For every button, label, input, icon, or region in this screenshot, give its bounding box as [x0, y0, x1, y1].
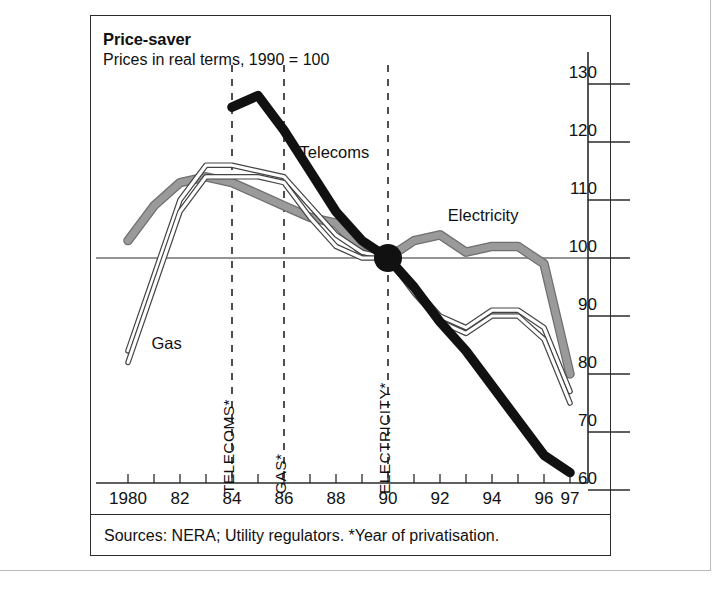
- series-label-gas: Gas: [151, 334, 181, 353]
- x-tick-label-92: 92: [431, 489, 450, 509]
- y-tick-label-130: 130: [569, 63, 597, 83]
- series-label-electricity: Electricity: [448, 206, 519, 225]
- x-tick-label-82: 82: [171, 489, 190, 509]
- source-note: Sources: NERA; Utility regulators. *Year…: [104, 527, 499, 545]
- event-label-gas-privatisation: GAS*: [272, 454, 290, 494]
- chart-subtitle: Prices in real terms, 1990 = 100: [103, 51, 329, 69]
- x-tick-label-97: 97: [561, 489, 580, 509]
- x-tick-label-94: 94: [483, 489, 502, 509]
- x-tick-label-88: 88: [327, 489, 346, 509]
- x-tick-label-96: 96: [535, 489, 554, 509]
- y-tick-label-70: 70: [578, 411, 597, 431]
- source-divider: [91, 514, 610, 515]
- y-tick-label-110: 110: [570, 179, 597, 199]
- y-tick-label-60: 60: [578, 469, 597, 489]
- chart-card: [90, 15, 611, 556]
- y-tick-label-90: 90: [578, 295, 597, 315]
- x-tick-label-1980: 1980: [109, 489, 147, 509]
- y-tick-label-100: 100: [569, 237, 597, 257]
- series-label-telecoms: Telecoms: [300, 143, 370, 162]
- event-label-telecoms-privatisation: TELECOMS*: [220, 399, 238, 494]
- chart-title: Price-saver: [103, 30, 191, 49]
- y-tick-label-80: 80: [578, 353, 597, 373]
- event-label-electricity-privatisation: ELECTRICITY*: [376, 382, 394, 494]
- y-tick-label-120: 120: [569, 121, 597, 141]
